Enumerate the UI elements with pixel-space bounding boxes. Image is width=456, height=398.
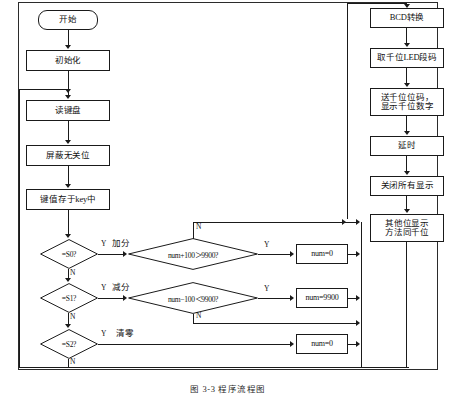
arrow-s1-s2 — [65, 324, 71, 328]
node-bcd-convert: BCD转换 — [370, 8, 444, 28]
decision-s2: =S2? — [40, 329, 98, 359]
connector-s2-yes — [98, 344, 291, 345]
result-num-9900: num=9900 — [296, 288, 348, 308]
label-s2-no: N — [70, 357, 75, 366]
label-branch-add: 加分 — [112, 236, 130, 248]
arrow-sub-no-right — [356, 320, 360, 326]
node-show-thousands-digit: 送千位位码， 显示千位数字 — [370, 88, 444, 116]
connector-bcd-seg — [406, 28, 407, 43]
node-store-key: 键值存于key中 — [26, 189, 110, 210]
rail-up-to-bcd — [347, 3, 348, 219]
arrow-bcd-seg — [404, 43, 410, 47]
node-init: 初始化 — [26, 50, 110, 71]
flowchart-figure: 开始 初始化 读键盘 屏蔽无关位 键值存于key中 =S0? =S1? =S2?… — [0, 0, 456, 398]
label-s0-no: N — [70, 268, 75, 277]
figure-caption: 图 3-3 程序流程图 — [0, 382, 456, 394]
label-sub-yes: Y — [264, 284, 269, 293]
decision-s1: =S1? — [40, 283, 98, 313]
label-s1-no: N — [70, 312, 75, 321]
result-num-zero-clear: num=0 — [296, 334, 348, 354]
label-s1-yes: Y — [101, 283, 106, 292]
arrow-read-mask — [65, 140, 71, 144]
arrow-mask-store — [65, 184, 71, 188]
arrow-add-yes — [290, 251, 294, 257]
arrow-s1-yes — [123, 295, 127, 301]
connector-store-s0 — [68, 210, 69, 235]
loop-left-rail — [19, 89, 20, 368]
arrow-seg-show — [404, 83, 410, 87]
node-get-segment-code: 取千位LED段码 — [370, 48, 444, 68]
connector-show-delay — [406, 116, 407, 131]
connector-delay-off — [406, 156, 407, 171]
rail-join-to-bcd-top — [347, 3, 407, 4]
arrow-sub-yes — [290, 295, 294, 301]
decision-s0: =S0? — [40, 239, 98, 269]
connector-sub-no-right — [193, 323, 357, 324]
arrow-off-others — [404, 209, 410, 213]
arrow-s0-yes — [123, 251, 127, 257]
connector-add-yes — [258, 254, 291, 255]
right-merge-rail — [361, 222, 362, 367]
node-mask-bits: 屏蔽无关位 — [26, 145, 110, 166]
arrow-add-no-right — [356, 219, 360, 225]
connector-s0-yes — [98, 254, 124, 255]
node-other-digits-same: 其他位显示 方法同千位 — [370, 214, 444, 242]
connector-s1-yes — [98, 298, 124, 299]
condition-add-overflow: num+100＞9900? — [128, 238, 258, 270]
arrow-resadd-rail — [356, 251, 360, 257]
loop-bottom-rail — [19, 367, 409, 368]
arrow-rail-merge-left — [342, 219, 346, 225]
label-add-no: N — [196, 222, 201, 231]
label-add-yes: Y — [264, 240, 269, 249]
connector-off-others — [406, 196, 407, 209]
connector-sub-yes — [258, 298, 291, 299]
node-read-keyboard: 读键盘 — [26, 100, 110, 121]
arrow-s2-yes — [290, 341, 294, 347]
condition-sub-underflow: num−100＜9900? — [128, 282, 258, 314]
connector-add-no-right — [193, 222, 357, 223]
arrow-into-bcd — [404, 4, 410, 8]
connector-start-init — [68, 30, 69, 46]
arrow-resclear-rail — [356, 341, 360, 347]
label-branch-sub: 减分 — [112, 280, 130, 292]
arrow-start-init — [65, 45, 71, 49]
label-sub-no: N — [196, 311, 201, 320]
node-delay: 延时 — [370, 136, 444, 156]
connector-add-no-up — [193, 222, 194, 239]
connector-seg-show — [406, 68, 407, 83]
label-s0-yes: Y — [101, 239, 106, 248]
result-num-zero-add: num=0 — [296, 244, 348, 264]
loop-into-readkey — [19, 89, 68, 90]
arrow-ressub-rail — [356, 295, 360, 301]
arrow-delay-off — [404, 171, 410, 175]
connector-others-to-bottom — [406, 242, 407, 368]
arrow-s0-s1 — [65, 278, 71, 282]
label-s2-yes: Y — [101, 329, 106, 338]
arrow-init-read — [65, 95, 71, 99]
connector-read-mask — [68, 121, 69, 141]
connector-mask-store — [68, 166, 69, 185]
node-start: 开始 — [38, 10, 98, 30]
arrow-loop-into-readkey — [65, 89, 71, 93]
label-branch-clear: 清零 — [116, 326, 134, 338]
arrow-store-s0 — [65, 234, 71, 238]
arrow-show-delay — [404, 131, 410, 135]
node-turn-off-all-display: 关闭所有显示 — [370, 176, 444, 196]
